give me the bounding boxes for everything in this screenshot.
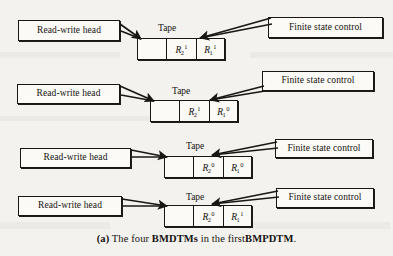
figure-caption: (a) The four BMDTMs in the firstBMPDTM.	[0, 234, 393, 245]
tape-cell[interactable]: R20	[193, 157, 222, 177]
finite-state-control-box-4[interactable]: Finite state control	[276, 188, 374, 208]
finite-state-control-label: Finite state control	[288, 193, 361, 203]
caption-text-1: The four	[112, 233, 149, 244]
arrow-control-to-tape-2b	[210, 91, 265, 100]
arrow-head-to-tape-1	[120, 24, 141, 39]
tape-label-text: Tape	[186, 141, 204, 151]
caption-index: (a)	[97, 233, 110, 244]
tape-2[interactable]: R21 R10	[150, 100, 238, 122]
tape-label-3: Tape	[186, 142, 204, 152]
tape-cell-symbol: R11	[204, 43, 216, 56]
read-write-head-box-3[interactable]: Read-write head	[20, 148, 131, 168]
tape-label-4: Tape	[186, 193, 204, 203]
read-write-head-label: Read-write head	[36, 89, 100, 99]
read-write-head-label: Read-write head	[43, 153, 107, 163]
tape-label-text: Tape	[186, 192, 204, 202]
read-write-head-box-4[interactable]: Read-write head	[18, 196, 122, 216]
tape-cell[interactable]	[165, 157, 193, 177]
read-write-head-label: Read-write head	[38, 201, 102, 211]
finite-state-control-label: Finite state control	[281, 76, 354, 86]
read-write-head-label: Read-write head	[37, 26, 101, 36]
tape-label-1: Tape	[158, 24, 176, 34]
tape-label-text: Tape	[172, 86, 190, 96]
scan-smudge	[240, 222, 390, 229]
arrow-control-to-tape-4	[212, 191, 278, 204]
caption-period: .	[293, 233, 296, 244]
tape-cell-symbol: R20	[202, 210, 214, 223]
tape-cell[interactable]: R10	[209, 101, 237, 121]
arrow-control-to-tape-4b	[212, 197, 279, 204]
tape-cell-symbol: R21	[188, 105, 200, 118]
finite-state-control-box-1[interactable]: Finite state control	[268, 17, 383, 38]
tape-cell[interactable]: R10	[223, 157, 251, 177]
read-write-head-box-2[interactable]: Read-write head	[17, 84, 120, 104]
scan-smudge	[0, 52, 120, 58]
arrow-control-to-tape-3	[212, 142, 277, 155]
tape-cell[interactable]: R21	[179, 101, 208, 121]
arrow-control-to-tape-2	[210, 86, 264, 100]
finite-state-control-label: Finite state control	[289, 23, 362, 33]
read-write-head-box-1[interactable]: Read-write head	[18, 20, 120, 41]
tape-cell[interactable]	[151, 101, 179, 121]
finite-state-control-label: Finite state control	[287, 144, 360, 154]
scan-smudge	[250, 52, 393, 58]
scan-smudge	[0, 222, 110, 229]
arrow-control-to-tape-1b	[200, 24, 272, 38]
tape-cell-symbol: R10	[231, 161, 243, 174]
arrow-head-to-tape-3	[131, 150, 167, 157]
finite-state-control-box-3[interactable]: Finite state control	[275, 139, 373, 158]
tape-cell[interactable]	[138, 39, 166, 59]
tape-cell[interactable]: R11	[223, 206, 251, 226]
arrow-control-to-tape-1	[200, 18, 271, 38]
tape-label-2: Tape	[172, 87, 190, 97]
tape-cell[interactable]: R11	[196, 39, 224, 59]
tape-cell-symbol: R21	[175, 43, 187, 56]
tape-cell[interactable]	[165, 206, 193, 226]
tape-cell[interactable]: R21	[166, 39, 195, 59]
caption-bold-2: BMPDTM	[245, 233, 293, 244]
scan-smudge	[0, 116, 150, 121]
arrow-head-to-tape-4	[122, 199, 167, 206]
tape-cell[interactable]: R20	[193, 206, 222, 226]
finite-state-control-box-2[interactable]: Finite state control	[262, 71, 374, 91]
caption-bold-1: BMDTMs	[152, 233, 198, 244]
tape-4[interactable]: R20 R11	[164, 205, 252, 227]
tape-cell-symbol: R20	[202, 161, 214, 174]
arrow-control-to-tape-3b	[212, 148, 278, 155]
arrow-head-to-tape-2	[120, 86, 154, 101]
tape-label-text: Tape	[158, 23, 176, 33]
tape-1[interactable]: R21 R11	[137, 38, 225, 60]
figure-container: Read-write head Tape R21 R11 Finite stat…	[0, 0, 393, 256]
tape-cell-symbol: R10	[217, 105, 229, 118]
tape-cell-symbol: R11	[231, 210, 243, 223]
caption-text-2: in the first	[201, 233, 245, 244]
tape-3[interactable]: R20 R10	[164, 156, 252, 178]
